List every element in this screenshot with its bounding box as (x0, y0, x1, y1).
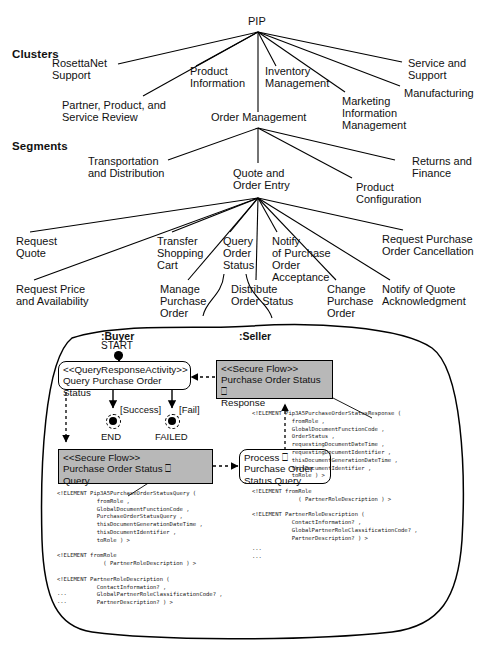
dtd-snippet-response-ellipsis: ... ... (252, 545, 262, 561)
section-label-segments: Segments (12, 140, 68, 152)
cluster-rosettanet-support: RosettaNet Support (52, 58, 107, 82)
pip-query-order-status: Query Order Status (223, 236, 254, 272)
final-node-end-icon (106, 414, 121, 429)
cluster-service-and-support: Service and Support (408, 58, 466, 82)
pip-notify-of-purchase-order-acceptance: Notify of Purchase Order Acceptance (272, 236, 331, 284)
segment-transportation-and-distribution: Transportation and Distribution (88, 156, 164, 180)
pip-change-purchase-order: Change Purchase Order (327, 284, 373, 320)
figure-canvas: Clusters Segments PIP RosettaNet Support… (0, 0, 497, 646)
start-label: START (101, 340, 133, 351)
final-node-failed-icon (165, 414, 180, 429)
initial-node-icon (114, 351, 123, 360)
cluster-marketing-information-management: Marketing Information Management (342, 96, 406, 132)
pip-distribute-order-status: Distribute Order Status (231, 284, 293, 308)
guard-success: [Success] (120, 404, 161, 415)
cluster-partner-product-service-review: Partner, Product, and Service Review (62, 100, 166, 124)
segment-quote-and-order-entry: Quote and Order Entry (233, 168, 290, 192)
cluster-product-information: Product Information (190, 66, 245, 90)
segment-returns-and-finance: Returns and Finance (412, 156, 472, 180)
final-node-failed-label: FAILED (155, 431, 188, 442)
pip-transfer-shopping-cart: Transfer Shopping Cart (157, 236, 204, 272)
pip-request-purchase-order-cancellation: Request Purchase Order Cancellation (382, 234, 474, 258)
dtd-snippet-query: <!ELEMENT Pip3A5PurchaseOrderStatusQuery… (57, 490, 223, 607)
segment-product-configuration: Product Configuration (356, 182, 421, 206)
activity-box-text: <<QueryResponseActivity>> Query Purchase… (63, 364, 186, 398)
pip-notify-of-quote-acknowledgment: Notify of Quote Acknowledgment (382, 284, 466, 308)
cluster-order-management: Order Management (211, 112, 306, 124)
cluster-inventory-management: Inventory Management (265, 66, 329, 90)
guard-fail: [Fail] (179, 404, 200, 415)
pip-request-quote: Request Quote (16, 236, 57, 260)
cluster-manufacturing: Manufacturing (404, 88, 474, 100)
pip-manage-purchase-order: Manage Purchase Order (160, 284, 206, 320)
secure-flow-query-text: <<Secure Flow>> Purchase Order Status ⎕ … (63, 452, 208, 486)
secure-flow-purchase-order-status-response[interactable]: <<Secure Flow>> Purchase Order Status ⎕ … (216, 360, 333, 399)
secure-flow-purchase-order-status-query[interactable]: <<Secure Flow>> Purchase Order Status ⎕ … (58, 449, 213, 484)
final-node-end-label: END (101, 431, 121, 442)
tree-root-pip: PIP (248, 16, 266, 28)
lifeline-label-seller: :Seller (239, 330, 271, 342)
secure-flow-response-text: <<Secure Flow>> Purchase Order Status ⎕ … (221, 363, 328, 408)
pip-request-price-and-availability: Request Price and Availability (16, 284, 89, 308)
activity-query-purchase-order-status[interactable]: <<QueryResponseActivity>> Query Purchase… (58, 361, 191, 390)
dtd-snippet-response: <!ELEMENT Pip3A5PurchaseOrderStatusRespo… (252, 410, 418, 543)
dtd-snippet-query-ellipsis: ... ... (57, 590, 67, 606)
